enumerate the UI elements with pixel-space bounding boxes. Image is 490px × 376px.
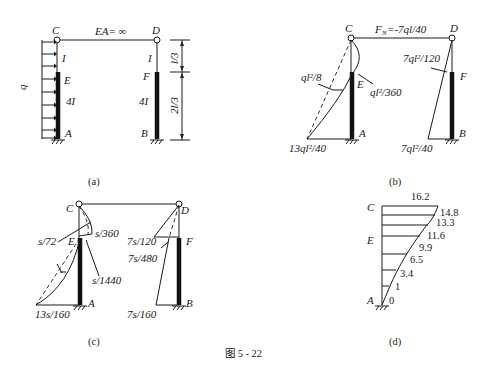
- fixed-support-b-icon: [445, 140, 459, 144]
- axial-force-label: F N =-7ql/40: [374, 23, 427, 37]
- value-7s480: 7s/480: [128, 252, 158, 264]
- moment-mid-left: ql²/8: [301, 71, 322, 83]
- figure-canvas: C D EA= ∞ I E 4I A I F 4I B q l/3 2l/3 (…: [0, 0, 490, 376]
- diagram-right: [154, 205, 179, 305]
- node-f-label: F: [459, 70, 467, 82]
- panel-d: C E A 16.2 14.8 13.3 11.6 9.9 6.5 3.4 1 …: [366, 191, 458, 348]
- value-13-3: 13.3: [436, 217, 454, 228]
- value-3-4: 3.4: [400, 268, 414, 279]
- fixed-support-b-icon: [172, 306, 186, 310]
- fixed-support-a-icon: [375, 306, 389, 310]
- node-d-label: D: [151, 24, 160, 36]
- panel-c: C D E F A B s/72 s/360 s/1440 13s/160 7s…: [35, 201, 193, 348]
- value-s72: s/72: [38, 235, 57, 247]
- node-b-label: B: [186, 297, 193, 309]
- axial-force-value: =-7ql/40: [387, 23, 427, 35]
- node-e-label: E: [366, 234, 374, 246]
- value-11-6: 11.6: [427, 230, 445, 241]
- distributed-load-arrows-icon: [42, 40, 57, 141]
- node-f-label: F: [142, 70, 150, 82]
- panel-b: C D E F A B F N =-7ql/40 ql²/8 ql²/360 1…: [289, 22, 467, 188]
- fixed-support-a-icon: [73, 306, 87, 310]
- left-lower-inertia: 4I: [66, 95, 77, 107]
- node-a-label: A: [358, 127, 366, 139]
- node-d-label: D: [180, 204, 189, 216]
- panel-c-sublabel: (c): [88, 336, 100, 348]
- value-7s160: 7s/160: [127, 308, 157, 320]
- moment-a: 13ql²/40: [289, 142, 326, 154]
- value-6-5: 6.5: [410, 254, 423, 265]
- load-q-label: q: [16, 84, 28, 90]
- node-b-label: B: [141, 127, 148, 139]
- fixed-support-b-icon: [150, 140, 164, 144]
- node-a-label: A: [366, 294, 374, 306]
- panel-b-sublabel: (b): [389, 176, 402, 188]
- right-upper-inertia: I: [147, 52, 153, 64]
- panel-a-sublabel: (a): [88, 176, 100, 188]
- panel-a: C D EA= ∞ I E 4I A I F 4I B q l/3 2l/3 (…: [16, 24, 190, 188]
- node-b-label: B: [459, 127, 466, 139]
- right-lower-inertia: 4I: [139, 95, 150, 107]
- dim-lower-label: 2l/3: [168, 96, 180, 114]
- value-9-9: 9.9: [419, 242, 432, 253]
- value-13s160: 13s/160: [35, 308, 70, 320]
- axial-force-symbol: F: [374, 23, 382, 35]
- node-f-label: F: [185, 235, 193, 247]
- node-a-label: A: [64, 127, 72, 139]
- hinge-d-icon: [154, 37, 160, 43]
- node-c-label: C: [345, 22, 353, 34]
- fixed-support-a-icon: [51, 140, 65, 144]
- beam-stiffness-label: EA= ∞: [94, 25, 127, 37]
- moment-b: 7ql²/40: [401, 142, 433, 154]
- node-c-label: C: [52, 24, 60, 36]
- moment-f: 7ql²/120: [403, 52, 440, 64]
- moment-e: ql²/360: [370, 86, 402, 98]
- leader-s1440: [86, 240, 99, 276]
- dim-upper-label: l/3: [168, 52, 180, 64]
- node-e-label: E: [356, 78, 364, 90]
- node-d-label: D: [449, 22, 458, 34]
- panel-d-sublabel: (d): [389, 336, 402, 348]
- figure-caption: 图 5 - 22: [225, 348, 262, 359]
- value-0: 0: [389, 295, 394, 306]
- left-upper-inertia: I: [61, 52, 67, 64]
- value-16-2: 16.2: [411, 191, 429, 202]
- node-e-label: E: [63, 74, 71, 86]
- value-s1440: s/1440: [92, 274, 122, 286]
- node-c-label: C: [367, 201, 375, 213]
- node-a-label: A: [87, 297, 95, 309]
- node-e-label: E: [67, 235, 75, 247]
- diagram-left: [36, 206, 92, 305]
- value-1: 1: [395, 281, 400, 292]
- value-7s120: 7s/120: [127, 235, 157, 247]
- fixed-support-a-icon: [345, 140, 359, 144]
- node-c-label: C: [66, 202, 74, 214]
- value-s360: s/360: [95, 227, 119, 239]
